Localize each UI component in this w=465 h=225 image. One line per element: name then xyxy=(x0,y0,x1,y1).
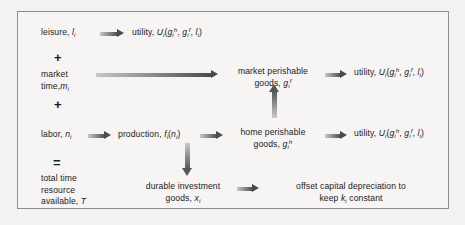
arrow-shaft xyxy=(272,91,277,118)
node-total-time-var: T xyxy=(81,196,86,206)
arrow-head xyxy=(269,84,279,92)
node-home-perishable: home perishable goods, gih xyxy=(226,127,320,150)
arrow-labor-to-production xyxy=(88,131,111,140)
arrow-leisure-to-utility xyxy=(100,29,124,38)
arg-l-sub: i xyxy=(420,71,421,78)
node-offset-depreciation: offset capital depreciation to keep ki c… xyxy=(266,181,436,204)
node-production-arg-sub: i xyxy=(176,133,177,140)
node-offset-depreciation-line2a: keep xyxy=(319,193,338,203)
arrow-head xyxy=(211,70,218,78)
arrow-shaft xyxy=(325,134,341,138)
node-utility-bottom: utility, Ui(gih, gif, li) xyxy=(354,128,424,140)
node-utility-middle-fn-sub: i xyxy=(385,71,386,78)
arrow-head xyxy=(117,29,124,37)
node-utility-top-fn-sub: i xyxy=(163,31,164,38)
arg-g1-sup: h xyxy=(174,26,178,33)
arrow-head xyxy=(340,70,347,78)
node-leisure-sub: i xyxy=(74,31,75,38)
node-leisure: leisure, li xyxy=(41,27,76,39)
arrow-head xyxy=(252,184,259,192)
arg-g1-sup: h xyxy=(396,66,400,73)
arrow-head xyxy=(216,131,223,139)
operator-plus-2: + xyxy=(54,98,62,111)
arrow-durable-investment-to-offset xyxy=(237,184,259,193)
node-offset-depreciation-line2b: constant xyxy=(349,193,382,203)
arg-g1-sup: h xyxy=(396,127,400,134)
node-offset-depreciation-line1: offset capital depreciation to xyxy=(266,181,436,193)
node-production: production, fi(ni) xyxy=(118,129,180,141)
arrow-shaft xyxy=(88,134,105,138)
arg-l-sub: i xyxy=(420,132,421,139)
arrow-shaft xyxy=(200,134,217,138)
node-labor-label: labor, xyxy=(41,129,63,139)
operator-equals: = xyxy=(53,156,61,169)
arrow-shaft xyxy=(96,73,212,77)
node-market-time: market time,mi xyxy=(41,69,69,92)
node-durable-investment-line2: goods, xi xyxy=(135,193,231,205)
node-home-perishable-line2-text: goods, xyxy=(254,139,280,149)
arrow-market-perishable-to-utility xyxy=(325,70,347,79)
arrow-head xyxy=(104,131,111,139)
arg-l-sub: i xyxy=(198,31,199,38)
node-durable-investment-line2-text: goods, xyxy=(166,193,192,203)
arg-g2-sup: f xyxy=(189,26,191,33)
node-production-label: production, xyxy=(118,129,162,139)
arrow-shaft xyxy=(100,32,118,36)
node-production-fn-sub: i xyxy=(167,133,168,140)
node-offset-depreciation-sub: i xyxy=(345,197,346,204)
node-home-perishable-sup: h xyxy=(289,138,293,145)
arrow-shaft xyxy=(237,187,253,191)
node-home-perishable-line2: goods, gih xyxy=(226,139,320,151)
arg-g2-sup: f xyxy=(411,127,413,134)
node-market-time-sub: i xyxy=(67,85,68,92)
node-market-time-line1: market xyxy=(41,69,69,81)
operator-plus-1: + xyxy=(54,51,62,64)
node-market-time-line2: time,mi xyxy=(41,81,69,93)
node-durable-investment: durable investment goods, xi xyxy=(135,181,231,204)
arrow-shaft xyxy=(185,143,190,169)
arrow-market-time-to-market-perishable xyxy=(96,70,218,79)
node-home-perishable-line1: home perishable xyxy=(226,127,320,139)
node-total-time-line3-text: available, xyxy=(41,196,78,206)
arrow-production-to-home-perishable xyxy=(200,131,223,140)
node-durable-investment-line1: durable investment xyxy=(135,181,231,193)
node-total-time-line3: available, T xyxy=(41,196,86,208)
node-total-time-line1: total time xyxy=(41,173,86,185)
node-utility-middle-label: utility, xyxy=(354,67,376,77)
node-total-time-line2: resource xyxy=(41,185,86,197)
node-total-time: total time resource available, T xyxy=(41,173,86,208)
node-utility-top: utility, Ui(gih, gif, li) xyxy=(132,27,202,39)
node-labor: labor, ni xyxy=(41,129,72,141)
node-utility-bottom-fn-sub: i xyxy=(385,132,386,139)
node-utility-bottom-label: utility, xyxy=(354,128,376,138)
node-durable-investment-sub: i xyxy=(199,197,200,204)
node-offset-depreciation-line2: keep ki constant xyxy=(266,193,436,205)
arrow-head xyxy=(340,131,347,139)
node-labor-sub: i xyxy=(70,133,71,140)
arrow-home-perishable-to-utility xyxy=(325,131,347,140)
arrow-shaft xyxy=(325,73,341,77)
arrow-production-to-durable-investment xyxy=(182,143,193,176)
node-utility-top-label: utility, xyxy=(132,27,154,37)
arg-g2-sup: f xyxy=(411,66,413,73)
diagram-frame: leisure, li utility, Ui(gih, gif, li) + … xyxy=(17,11,449,209)
arrow-home-to-market-perishable xyxy=(269,84,280,118)
arrow-head xyxy=(182,168,192,176)
node-leisure-label: leisure, xyxy=(41,27,70,37)
node-market-perishable-line1: market perishable xyxy=(224,66,322,78)
node-utility-middle: utility, Ui(gih, gif, li) xyxy=(354,67,424,79)
node-market-perishable-sup: f xyxy=(290,77,292,84)
node-market-time-line2-text: time, xyxy=(41,81,60,91)
